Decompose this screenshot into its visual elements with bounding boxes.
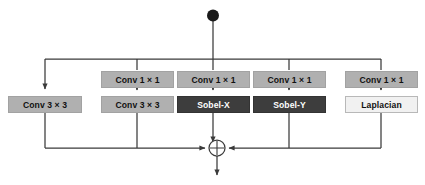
block-sobel-x[interactable]: Sobel-X bbox=[177, 96, 250, 113]
block-diagram: Conv 3 × 3 Conv 1 × 1 Conv 3 × 3 Conv 1 … bbox=[0, 0, 425, 185]
block-conv3x3-branch-1[interactable]: Conv 3 × 3 bbox=[8, 96, 82, 113]
block-conv1x1-branch-3[interactable]: Conv 1 × 1 bbox=[177, 71, 250, 88]
block-label: Conv 1 × 1 bbox=[191, 75, 235, 85]
connection-wires bbox=[0, 0, 425, 185]
block-label: Sobel-X bbox=[197, 100, 230, 110]
block-sobel-y[interactable]: Sobel-Y bbox=[253, 96, 326, 113]
block-conv3x3-branch-2[interactable]: Conv 3 × 3 bbox=[101, 96, 174, 113]
block-label: Conv 3 × 3 bbox=[115, 100, 159, 110]
block-conv1x1-branch-5[interactable]: Conv 1 × 1 bbox=[345, 71, 418, 88]
block-label: Conv 1 × 1 bbox=[267, 75, 311, 85]
block-conv1x1-branch-4[interactable]: Conv 1 × 1 bbox=[253, 71, 326, 88]
block-label: Sobel-Y bbox=[273, 100, 306, 110]
block-label: Conv 1 × 1 bbox=[115, 75, 159, 85]
block-label: Conv 1 × 1 bbox=[359, 75, 403, 85]
block-label: Laplacian bbox=[361, 100, 402, 110]
block-laplacian[interactable]: Laplacian bbox=[345, 96, 418, 113]
sum-node bbox=[209, 140, 225, 156]
input-node-dot bbox=[207, 10, 219, 22]
block-conv1x1-branch-2[interactable]: Conv 1 × 1 bbox=[101, 71, 174, 88]
block-label: Conv 3 × 3 bbox=[23, 100, 67, 110]
